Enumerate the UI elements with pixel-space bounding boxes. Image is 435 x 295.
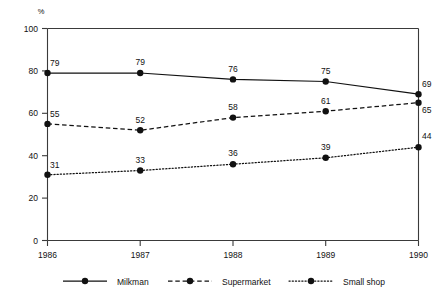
line-chart: % 100 80 60 40 20 0 <box>0 0 435 295</box>
small-shop-label-1988: 36 <box>228 148 238 158</box>
legend-marker-milkman <box>82 278 88 284</box>
legend-item-small-shop[interactable]: Small shop <box>289 277 385 287</box>
supermarket-label-1988: 58 <box>228 102 238 112</box>
y-tick-label-40: 40 <box>29 151 39 161</box>
data-labels-small-shop: 31 33 36 39 44 <box>50 131 432 170</box>
x-tick-label-1990: 1990 <box>409 250 428 260</box>
supermarket-label-1989: 61 <box>321 96 331 106</box>
supermarket-point-1988 <box>230 114 236 120</box>
x-axis-tick-labels: 1986 1987 1988 1989 1990 <box>38 250 428 260</box>
milkman-point-1988 <box>230 76 236 82</box>
legend-item-milkman[interactable]: Milkman <box>63 277 149 287</box>
milkman-label-1989: 75 <box>321 66 331 76</box>
milkman-label-1986: 79 <box>50 58 60 68</box>
milkman-label-1988: 76 <box>228 64 238 74</box>
supermarket-point-1990 <box>415 100 421 106</box>
supermarket-point-1987 <box>137 127 143 133</box>
small-shop-point-1990 <box>415 144 421 150</box>
y-tick-label-20: 20 <box>29 193 39 203</box>
milkman-point-1986 <box>44 70 50 76</box>
milkman-point-1987 <box>137 70 143 76</box>
legend-marker-supermarket <box>187 278 193 284</box>
legend-marker-small-shop <box>308 278 314 284</box>
milkman-point-1989 <box>323 78 329 84</box>
supermarket-point-1986 <box>44 121 50 127</box>
x-tick-label-1986: 1986 <box>38 250 57 260</box>
y-tick-label-100: 100 <box>24 24 38 34</box>
y-axis-tick-labels: 100 80 60 40 20 0 <box>24 24 38 246</box>
milkman-point-1990 <box>415 91 421 97</box>
small-shop-label-1986: 31 <box>50 160 60 170</box>
legend-item-supermarket[interactable]: Supermarket <box>168 277 271 287</box>
small-shop-point-1986 <box>44 172 50 178</box>
small-shop-label-1989: 39 <box>321 142 331 152</box>
small-shop-point-1987 <box>137 167 143 173</box>
milkman-line <box>48 73 419 94</box>
supermarket-point-1989 <box>323 108 329 114</box>
x-tick-label-1987: 1987 <box>131 250 150 260</box>
y-axis-ticks <box>42 29 48 241</box>
y-tick-label-60: 60 <box>29 108 39 118</box>
legend-label-supermarket: Supermarket <box>222 277 271 287</box>
small-shop-label-1987: 33 <box>135 155 145 165</box>
y-tick-label-0: 0 <box>33 236 38 246</box>
milkman-label-1987: 79 <box>135 57 145 67</box>
plot-frame <box>48 29 419 241</box>
y-tick-label-80: 80 <box>29 66 39 76</box>
milkman-label-1990: 69 <box>422 79 432 89</box>
x-axis-ticks <box>48 241 419 247</box>
legend-label-small-shop: Small shop <box>343 277 385 287</box>
supermarket-label-1990: 65 <box>422 105 432 115</box>
legend-label-milkman: Milkman <box>117 277 149 287</box>
y-axis-unit-label: % <box>38 7 45 16</box>
supermarket-label-1986: 55 <box>50 109 60 119</box>
small-shop-point-1988 <box>230 161 236 167</box>
x-tick-label-1988: 1988 <box>224 250 243 260</box>
series-milkman <box>44 70 421 98</box>
supermarket-label-1987: 52 <box>135 115 145 125</box>
small-shop-point-1989 <box>323 155 329 161</box>
small-shop-label-1990: 44 <box>422 131 432 141</box>
x-tick-label-1989: 1989 <box>316 250 335 260</box>
data-labels-supermarket: 55 52 58 61 65 <box>50 96 432 125</box>
chart-legend: Milkman Supermarket Small shop <box>63 277 385 287</box>
